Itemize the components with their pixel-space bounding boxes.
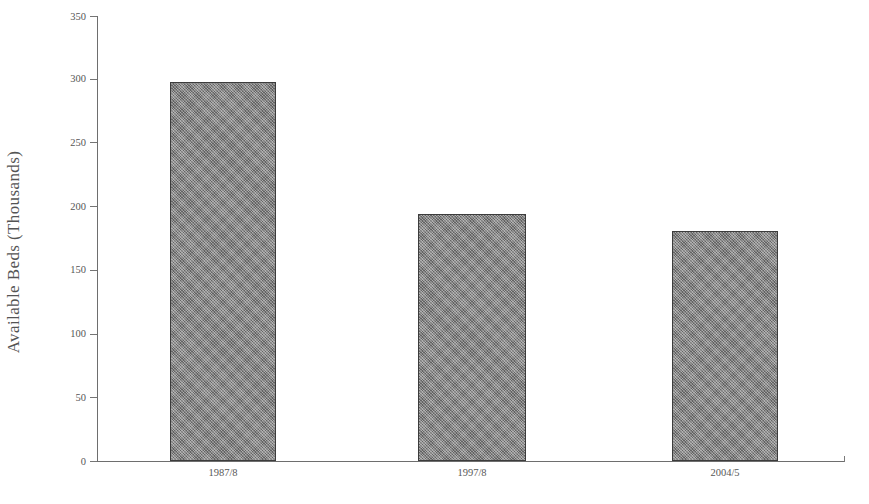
y-tick-300: 300: [90, 79, 97, 80]
x-axis-line: [97, 461, 845, 462]
bar-chart: Available Beds (Thousands) 0 50 100 150 …: [0, 0, 869, 504]
y-tick-350: 350: [90, 16, 97, 17]
y-tick-label-100: 100: [70, 329, 86, 340]
y-tick-label-200: 200: [70, 201, 86, 212]
y-axis-title-label: Available Beds (Thousands): [4, 151, 24, 354]
y-tick-label-50: 50: [76, 393, 87, 404]
y-tick-label-300: 300: [70, 74, 86, 85]
x-axis-label-2: 2004/5: [672, 468, 778, 479]
y-tick-0: 0: [90, 461, 97, 462]
y-tick-50: 50: [90, 397, 97, 398]
x-axis-label-1: 1997/8: [418, 468, 526, 479]
bar-2: [672, 231, 778, 461]
plot-area: 0 50 100 150 200 250 300 350 1987/8 1997…: [97, 16, 845, 462]
x-axis-end-tick: [844, 456, 845, 462]
y-tick-label-0: 0: [81, 456, 86, 467]
y-tick-150: 150: [90, 270, 97, 271]
y-tick-100: 100: [90, 334, 97, 335]
x-axis-label-0: 1987/8: [170, 468, 276, 479]
y-tick-200: 200: [90, 206, 97, 207]
y-tick-label-250: 250: [70, 138, 86, 149]
bar-0: [170, 82, 276, 461]
bar-1: [418, 214, 526, 461]
y-axis-title: Available Beds (Thousands): [0, 0, 40, 504]
y-tick-label-350: 350: [70, 11, 86, 22]
y-tick-250: 250: [90, 142, 97, 143]
y-tick-label-150: 150: [70, 265, 86, 276]
y-axis-line: [97, 16, 98, 462]
